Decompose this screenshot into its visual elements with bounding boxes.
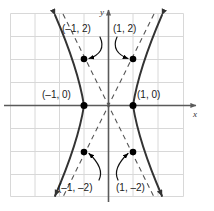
point-label-1-neg2: (1, –2) [116,182,145,193]
arrow-to-point-neg1-neg2 [89,154,101,181]
point-label-neg1-0: (–1, 0) [42,89,71,100]
arrow-to-point-1-neg2 [116,154,128,181]
point-neg1-0 [81,102,88,109]
point-neg1-neg2 [81,149,88,156]
arrow-to-point-1-2 [115,37,128,59]
x-axis-label: x [193,110,197,119]
point-neg1-2 [81,56,88,63]
point-1-2 [130,56,137,63]
point-label-1-2: (1, 2) [113,23,136,34]
point-label-1-0: (1, 0) [137,89,160,100]
point-label-neg1-2: (–1, 2) [62,23,91,34]
arrow-to-point-neg1-2 [89,37,102,59]
graph-canvas [0,0,214,211]
point-label-neg1-neg2: (–1, –2) [58,182,92,193]
y-axis-label: y [100,8,104,17]
hyperbola-figure: (–1, 2) (1, 2) (–1, 0) (1, 0) (–1, –2) (… [0,0,214,211]
point-1-0 [130,102,137,109]
point-1-neg2 [130,149,137,156]
